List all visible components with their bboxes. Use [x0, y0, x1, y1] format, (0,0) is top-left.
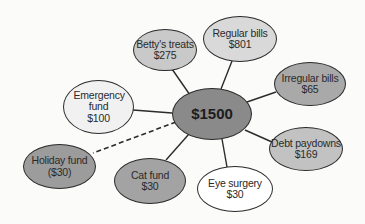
node-amount: $65 [302, 84, 319, 96]
node-amount: $169 [295, 149, 318, 161]
node-irregular-bills: Irregular bills $65 [274, 62, 346, 106]
node-name: Emergency fund [74, 90, 124, 113]
node-amount: $275 [154, 50, 177, 62]
node-amount: $801 [229, 39, 252, 51]
connector-emergency-fund [133, 110, 172, 113]
connector-bettys-treats [172, 69, 190, 95]
node-holiday-fund: Holiday fund ($30) [23, 144, 96, 189]
connector-irregular-bills [247, 92, 276, 102]
node-name: Holiday fund [32, 155, 88, 167]
connector-regular-bills [221, 61, 232, 89]
connector-eye-surgery [222, 139, 227, 167]
node-emergency-fund: Emergency fund $100 [63, 80, 134, 134]
budget-diagram: $1500 Betty's treats $275 Regular bills … [0, 0, 365, 224]
center-total-label: $1500 [191, 106, 233, 122]
node-debt-paydowns: Debt paydowns $169 [269, 127, 343, 171]
node-cat-fund: Cat fund $30 [114, 158, 186, 204]
node-amount: $100 [87, 113, 110, 125]
node-amount: ($30) [48, 167, 72, 179]
node-amount: $30 [142, 181, 159, 193]
center-total-node: $1500 [172, 88, 252, 140]
connector-cat-fund [166, 134, 189, 160]
connector-debt-paydowns [245, 130, 272, 142]
node-amount: $30 [227, 189, 244, 201]
node-eye-surgery: Eye surgery $30 [197, 166, 273, 212]
node-bettys-treats: Betty's treats $275 [133, 29, 197, 71]
node-regular-bills: Regular bills $801 [203, 16, 277, 62]
